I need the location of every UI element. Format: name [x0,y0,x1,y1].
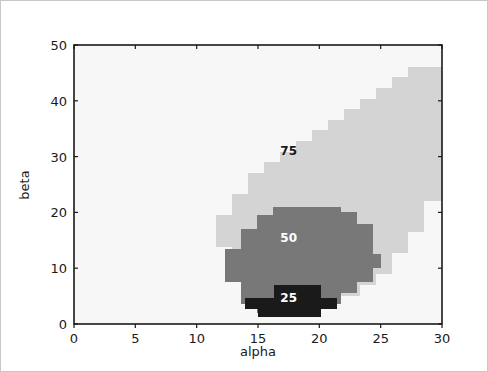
y-tick-label-40: 40 [50,94,67,109]
y-tick-label-10: 10 [50,261,67,276]
y-tick-label-20: 20 [50,205,67,220]
x-tick-label-20: 20 [311,331,328,346]
x-tick-label-10: 10 [188,331,205,346]
y-tick-label-50: 50 [50,38,67,53]
contour-label-75: 75 [280,144,297,158]
plot-canvas: 755025 05101520253001020304050 alpha bet… [1,1,488,372]
x-tick-label-30: 30 [434,331,451,346]
y-axis-label: beta [17,170,32,199]
contour-label-25: 25 [280,291,297,305]
y-tick-label-30: 30 [50,150,67,165]
contour-plot-figure: 755025 05101520253001020304050 alpha bet… [0,0,488,372]
x-axis-label: alpha [240,344,276,359]
contour-label-50: 50 [280,231,297,245]
x-tick-label-25: 25 [372,331,389,346]
y-tick-label-0: 0 [59,317,67,332]
x-tick-label-5: 5 [131,331,139,346]
x-tick-label-0: 0 [70,331,78,346]
